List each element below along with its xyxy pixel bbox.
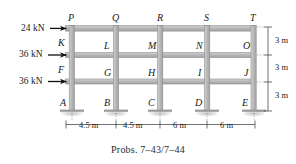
joint-label-J: J [244, 68, 248, 78]
joint-label-Q: Q [112, 13, 119, 23]
vertical-dimension-line [257, 27, 272, 111]
joint-label-K: K [58, 38, 65, 48]
dim-story-3: 3 m [275, 36, 288, 45]
dim-bay-2: 4.5 m [123, 121, 142, 130]
load-label-bottom: 36 kN [19, 77, 43, 87]
load-label-middle: 36 kN [19, 50, 43, 60]
load-label-top: 24 kN [21, 24, 45, 34]
joint-label-B: B [104, 98, 110, 108]
fixed-supports [60, 110, 266, 112]
dim-bay-1: 4.5 m [79, 121, 98, 130]
joint-label-R: R [157, 13, 163, 23]
joint-label-H: H [148, 68, 155, 78]
joint-label-S: S [204, 13, 209, 23]
joint-label-I: I [198, 68, 201, 78]
joint-label-C: C [148, 98, 155, 108]
dim-story-2: 3 m [275, 63, 288, 72]
columns [69, 26, 256, 111]
joint-label-M: M [148, 41, 156, 51]
joint-label-F: F [58, 65, 64, 75]
joint-label-E: E [242, 98, 248, 108]
joint-label-A: A [60, 98, 66, 108]
joint-label-T: T [250, 13, 256, 23]
joint-label-O: O [243, 41, 250, 51]
joint-label-P: P [68, 13, 74, 23]
joint-label-N: N [196, 41, 203, 51]
joint-label-G: G [104, 68, 111, 78]
joint-label-D: D [195, 98, 202, 108]
dim-bay-3: 6 m [173, 121, 186, 130]
joint-label-L: L [104, 41, 110, 51]
dim-bay-4: 6 m [220, 121, 233, 130]
figure-caption: Probs. 7–43/7–44 [0, 144, 296, 155]
dim-story-1: 3 m [275, 91, 288, 100]
